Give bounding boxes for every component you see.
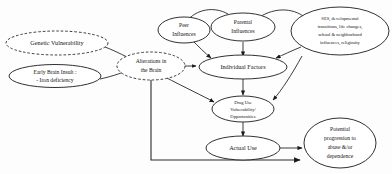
node-early-brain-insult[interactable]: Early Brain Insult : - Iron deficiency — [9, 65, 101, 88]
peer-influences-line2: Influences — [172, 31, 195, 37]
peer-influences-line1: Peer — [179, 22, 189, 28]
potential-progression-line3: abuse &/or — [328, 144, 353, 150]
node-genetic-vulnerability[interactable]: Genetic Vulnerability — [6, 31, 108, 55]
node-actual-use[interactable]: Actual Use — [206, 136, 280, 160]
diagram-canvas: Genetic Vulnerability Early Brain Insult… — [0, 0, 392, 174]
ses-context-line3: school & neighborhood — [318, 32, 362, 37]
alterations-brain-line1: Alterations in — [136, 58, 167, 64]
node-peer-influences[interactable]: Peer Influences — [158, 17, 210, 43]
drug-use-vulnerability-line3: Opportunities — [230, 114, 255, 119]
alterations-brain-line2: the Brain — [141, 67, 162, 73]
edge-ses-to-individual — [276, 47, 301, 58]
potential-progression-line4: dependence — [327, 153, 354, 159]
flowchart-svg: Genetic Vulnerability Early Brain Insult… — [0, 0, 392, 174]
potential-progression-line1: Potential — [330, 126, 350, 132]
node-parental-influences[interactable]: Parental Influences — [211, 13, 275, 41]
node-potential-progression[interactable]: Potential progression to abuse &/or depe… — [304, 118, 376, 168]
node-alterations-brain[interactable]: Alterations in the Brain — [117, 52, 185, 80]
early-brain-insult-line1: Early Brain Insult : — [33, 69, 76, 75]
potential-progression-line2: progression to — [324, 135, 356, 141]
node-drug-use-vulnerability[interactable]: Drug Use Vulnerability/ Opportunities — [212, 96, 274, 122]
actual-use-label: Actual Use — [229, 144, 257, 151]
node-ses-context[interactable]: SES, developmental transitions, life cha… — [291, 7, 389, 55]
individual-factors-label: Individual Factors — [220, 63, 266, 70]
drug-use-vulnerability-line1: Drug Use — [234, 100, 252, 105]
drug-use-vulnerability-line2: Vulnerability/ — [230, 107, 256, 112]
genetic-vulnerability-label: Genetic Vulnerability — [30, 39, 84, 46]
parental-influences-line1: Parental — [234, 19, 253, 25]
node-individual-factors[interactable]: Individual Factors — [199, 55, 287, 79]
edge-brain-to-druguse — [163, 76, 214, 102]
parental-influences-line2: Influences — [231, 28, 254, 34]
early-brain-insult-line2: - Iron deficiency — [36, 77, 73, 83]
